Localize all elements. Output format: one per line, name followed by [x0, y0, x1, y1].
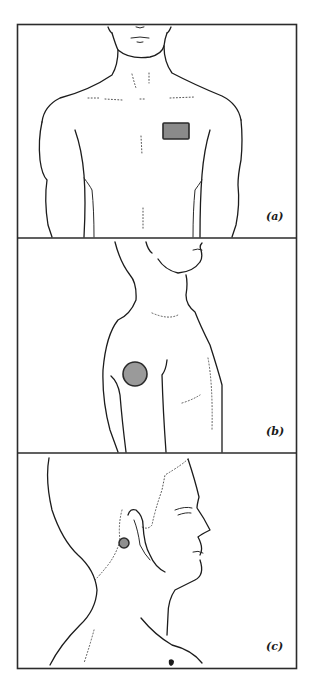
chin-line — [136, 27, 144, 28]
panel-b-figure — [103, 242, 222, 452]
sternum-dotted — [208, 358, 212, 430]
arm-front-line — [162, 360, 167, 452]
left-jaw — [108, 27, 112, 33]
electrode-placement-figure: (a) (b) (c) — [0, 0, 313, 689]
pectoral-dotted — [182, 395, 200, 403]
ear — [146, 242, 152, 253]
rectangular-electrode-icon — [163, 123, 189, 139]
panel-a-figure — [39, 27, 242, 237]
hairline-dotted — [142, 459, 188, 528]
shoulder-line-c — [141, 618, 202, 663]
back-of-head-neck — [48, 458, 97, 665]
lower-lip — [137, 42, 143, 43]
neck-dotted — [84, 630, 94, 663]
nipple-mark — [169, 659, 174, 666]
mastoid-dotted — [95, 510, 122, 580]
outer-frame — [18, 25, 297, 669]
figure-canvas — [0, 0, 313, 689]
circular-electrode-icon — [123, 362, 147, 386]
left-arm-outer — [39, 122, 52, 237]
front-chest-outline — [186, 275, 222, 452]
back-arm-outline — [103, 242, 136, 452]
frame — [18, 25, 297, 669]
small-circular-electrode-icon — [119, 538, 129, 548]
lips — [131, 37, 149, 38]
clavicle-dotted — [152, 313, 178, 317]
face-profile — [188, 459, 210, 555]
mouth — [193, 249, 202, 250]
right-arm-inner — [200, 130, 210, 237]
left-arm-inner — [75, 130, 85, 237]
panel-c-figure — [48, 458, 210, 666]
jaw-profile — [158, 243, 202, 273]
right-jaw — [167, 27, 171, 33]
ear-inner — [134, 520, 150, 560]
left-neck-shoulder — [42, 50, 118, 122]
sternum-line — [141, 136, 142, 155]
ear-outer — [128, 510, 165, 572]
sternocleidomastoid-left — [132, 74, 136, 88]
left-clavicle — [88, 98, 122, 100]
jaw-neck-c — [167, 560, 202, 635]
right-arm-outer — [232, 120, 242, 237]
right-clavicle — [170, 97, 195, 98]
panel-label-c: (c) — [266, 640, 283, 653]
eyebrow-eye — [175, 507, 192, 515]
right-neck-shoulder — [164, 46, 241, 120]
panel-label-a: (a) — [266, 210, 284, 223]
panel-label-b: (b) — [266, 425, 284, 438]
